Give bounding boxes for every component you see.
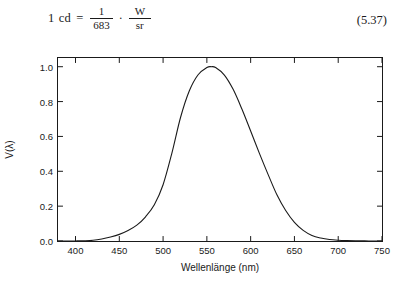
y-axis-title-label: V(λ) xyxy=(4,140,15,158)
y-tick-label-0.6: 0.6 xyxy=(40,131,53,142)
y-tick-label-0.8: 0.8 xyxy=(40,96,53,107)
x-tick-label-600: 600 xyxy=(243,245,259,256)
unit-denominator: sr xyxy=(133,19,147,31)
equation-number: (5.37) xyxy=(357,13,387,28)
equation-fraction-units: W sr xyxy=(129,6,151,31)
equation-multiplication-dot: · xyxy=(119,11,123,26)
y-tick-label-0.2: 0.2 xyxy=(40,201,53,212)
x-tick-label-450: 450 xyxy=(111,245,127,256)
y-tick-label-0.0: 0.0 xyxy=(40,236,53,247)
x-tick-label-700: 700 xyxy=(330,245,346,256)
unit-numerator: W xyxy=(132,6,148,18)
y-tick-label-1.0: 1.0 xyxy=(40,61,53,72)
y-tick-label-0.4: 0.4 xyxy=(40,166,53,177)
axis-ticks xyxy=(58,58,382,241)
equation-lhs-value: 1 xyxy=(48,11,55,26)
x-tick-label-550: 550 xyxy=(199,245,215,256)
fraction-numerator: 1 xyxy=(96,6,108,18)
equation-expression: 1 cd = 1 683 · W sr xyxy=(48,6,153,31)
x-tick-label-400: 400 xyxy=(68,245,84,256)
y-axis-title: V(λ) xyxy=(2,57,16,242)
equation-lhs-unit: cd xyxy=(59,11,72,26)
equation-fraction-coefficient: 1 683 xyxy=(90,6,113,31)
luminosity-curve xyxy=(58,67,382,241)
plot-svg xyxy=(58,58,382,241)
figure: V(λ) 0.00.20.40.60.81.0 4004505005506006… xyxy=(0,44,395,291)
fraction-denominator: 683 xyxy=(90,19,113,31)
equation-block: 1 cd = 1 683 · W sr (5.37) xyxy=(0,0,395,44)
equation-relation: = xyxy=(76,11,83,26)
x-tick-label-500: 500 xyxy=(155,245,171,256)
plot-area: 0.00.20.40.60.81.0 400450500550600650700… xyxy=(57,57,383,242)
x-tick-label-650: 650 xyxy=(286,245,302,256)
x-tick-label-750: 750 xyxy=(374,245,390,256)
x-axis-title: Wellenlänge (nm) xyxy=(57,262,383,273)
